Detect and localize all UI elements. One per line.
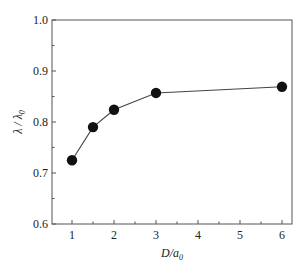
data-point-marker	[277, 82, 287, 92]
x-axis-label: D/a0	[160, 246, 183, 262]
data-point-marker	[88, 122, 98, 132]
line-chart: 0.60.70.80.91.0 123456 D/a0 λ / λ0	[0, 0, 307, 268]
x-axis-ticks: 123456	[69, 220, 285, 242]
x-tick-label: 3	[153, 228, 159, 242]
data-point-marker	[67, 155, 77, 165]
x-tick-label: 5	[237, 228, 243, 242]
y-tick-label: 1.0	[33, 13, 48, 27]
x-tick-label: 2	[111, 228, 117, 242]
data-point-marker	[109, 105, 119, 115]
y-tick-label: 0.7	[33, 166, 48, 180]
data-point-marker	[151, 88, 161, 98]
y-tick-label: 0.8	[33, 115, 48, 129]
x-tick-label: 1	[69, 228, 75, 242]
data-series-line	[72, 87, 282, 160]
x-tick-label: 4	[195, 228, 201, 242]
y-tick-label: 0.6	[33, 217, 48, 231]
data-series-markers	[67, 82, 287, 166]
y-axis-label: λ / λ0	[11, 110, 27, 135]
y-tick-label: 0.9	[33, 64, 48, 78]
y-axis-ticks: 0.60.70.80.91.0	[33, 13, 56, 231]
plot-frame	[52, 20, 292, 224]
x-tick-label: 6	[279, 228, 285, 242]
